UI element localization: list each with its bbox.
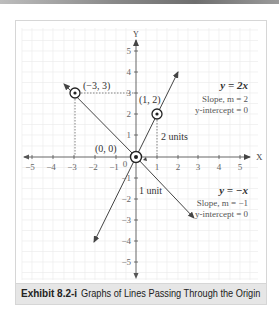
point-label-origin: (0, 0) [95,143,117,155]
y-tick-label: −5 [121,257,131,267]
y-tick-label: 4 [127,67,132,77]
y-tick-label: 2 [127,109,132,119]
caption-title: Graphs of Lines Passing Through the Orig… [81,284,260,304]
x-tick-label: 2 [176,162,181,172]
unit-arrow-icon [143,157,147,161]
x-tick-label: −1 [109,162,119,172]
x-tick-label: −4 [46,162,56,172]
intercept-label-y-2x: y-intercept = 0 [195,105,249,115]
y-tick-label: −4 [121,236,131,246]
equation-y-neg-x: y = −x [217,184,248,196]
y-tick-label: 5 [127,46,132,56]
y-tick-label: −1 [121,173,131,183]
x-tick-label: −5 [25,162,35,172]
point-1-2 [152,109,162,119]
x-tick-label: −3 [67,162,77,172]
x-tick-label: 4 [217,162,222,172]
x-axis-label: X [256,152,263,162]
y-tick-label: −2 [121,194,131,204]
two-units-label: 2 units [161,131,188,142]
coordinate-plot: −5 −4 −3 −2 −1 0 1 2 3 4 5 5 4 3 2 1 −1 … [0,0,279,311]
y-tick-label: 3 [127,88,132,98]
point-neg3-3 [70,88,80,98]
point-label-neg3-3: (−3, 3) [83,80,110,92]
origin-label: 0 [123,159,128,169]
slope-label-y-neg-x: Slope, m = −1 [197,198,248,208]
y-tick-label: −3 [121,215,131,225]
x-tick-label: 1 [155,162,160,172]
point-label-1-2: (1, 2) [139,94,161,106]
x-tick-label: 5 [238,162,243,172]
intercept-label-y-neg-x: y-intercept = 0 [195,209,249,219]
equation-y-2x: y = 2x [218,79,248,91]
figure-caption: Exhibit 8.2-iGraphs of Lines Passing Thr… [15,283,267,305]
y-axis-label: Y [133,30,139,39]
y-tick-label: 1 [127,130,132,140]
caption-number: Exhibit 8.2-i [21,288,77,299]
one-unit-label: 1 unit [139,185,162,196]
point-origin [131,152,142,163]
x-tick-label: 3 [196,162,201,172]
x-tick-label: −2 [88,162,98,172]
slope-label-y-2x: Slope, m = 2 [202,94,248,104]
